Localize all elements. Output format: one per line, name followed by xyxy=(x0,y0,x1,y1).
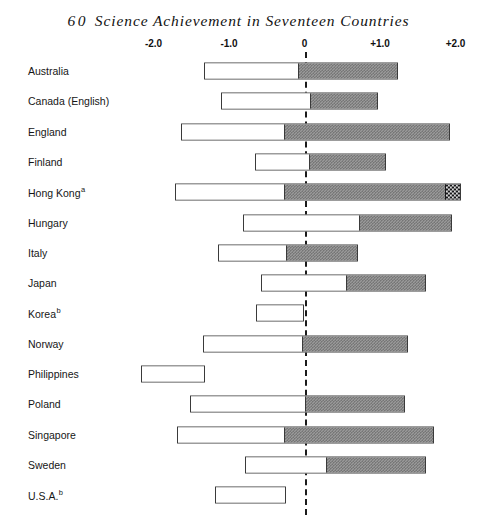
score-range-bar xyxy=(256,305,304,322)
bar-row: Norway xyxy=(0,329,477,359)
country-label: Japan xyxy=(28,277,57,289)
bar-segment-gray xyxy=(346,276,425,291)
bar-row: Poland xyxy=(0,389,477,419)
country-label: Italy xyxy=(28,247,47,259)
bar-segment-white xyxy=(262,276,346,291)
chart-title-text: Science Achievement in Seventeen Countri… xyxy=(95,12,410,29)
score-range-bar xyxy=(181,123,450,140)
score-range-bar xyxy=(218,244,358,261)
bar-row: Philippines xyxy=(0,359,477,389)
bar-row: U.S.A.b xyxy=(0,480,477,510)
country-label: Australia xyxy=(28,65,69,77)
bar-segment-white xyxy=(142,367,203,382)
chart-title-number: 60 xyxy=(68,12,88,29)
footnote-marker: b xyxy=(59,488,63,497)
footnote-marker: b xyxy=(57,307,61,316)
bar-segment-white xyxy=(222,94,310,109)
country-label: Sweden xyxy=(28,459,66,471)
country-label: Hong Konga xyxy=(28,185,85,199)
country-label: Philippines xyxy=(28,368,79,380)
bar-row: Koreab xyxy=(0,298,477,328)
score-range-bar xyxy=(177,426,434,443)
x-axis-tick-labels: -2.0-1.00+1.0+2.0 xyxy=(0,38,477,52)
bar-segment-gray xyxy=(284,185,445,200)
bar-segment-gray xyxy=(302,336,407,351)
bar-row: Italy xyxy=(0,238,477,268)
x-tick-label: +1.0 xyxy=(370,38,390,49)
score-range-bar xyxy=(243,214,451,231)
score-range-bar xyxy=(255,153,386,170)
bar-segment-white xyxy=(246,457,326,472)
country-label: England xyxy=(28,126,67,138)
country-label: Hungary xyxy=(28,217,68,229)
bar-segment-white xyxy=(205,64,298,79)
bar-segment-white xyxy=(244,215,358,230)
bar-row: England xyxy=(0,117,477,147)
score-range-bar xyxy=(141,366,204,383)
bar-segment-gray xyxy=(326,457,425,472)
score-range-bar xyxy=(204,63,398,80)
score-range-bar xyxy=(190,396,405,413)
bar-segment-gray xyxy=(305,397,404,412)
score-range-bar xyxy=(245,456,426,473)
bar-segment-black xyxy=(445,185,460,200)
x-tick-label: +2.0 xyxy=(446,38,466,49)
bar-segment-gray xyxy=(310,94,377,109)
bar-segment-gray xyxy=(286,245,357,260)
country-label: Finland xyxy=(28,156,62,168)
bar-segment-gray xyxy=(298,64,397,79)
score-range-bar xyxy=(261,275,426,292)
footnote-marker: a xyxy=(81,185,85,194)
x-tick-label: -2.0 xyxy=(145,38,162,49)
bar-row: Japan xyxy=(0,268,477,298)
bar-segment-gray xyxy=(284,124,450,139)
bar-row: Canada (English) xyxy=(0,86,477,116)
score-range-bar xyxy=(203,335,408,352)
science-achievement-chart: 60Science Achievement in Seventeen Count… xyxy=(0,0,477,527)
country-label: U.S.A.b xyxy=(28,488,63,502)
bar-segment-white xyxy=(257,306,303,321)
x-tick-label: -1.0 xyxy=(220,38,237,49)
bar-segment-white xyxy=(182,124,283,139)
bar-segment-gray xyxy=(359,215,451,230)
score-range-bar xyxy=(175,184,461,201)
score-range-bar xyxy=(215,487,286,504)
bar-row: Singapore xyxy=(0,420,477,450)
bar-row: Hungary xyxy=(0,208,477,238)
bar-row: Sweden xyxy=(0,450,477,480)
bar-segment-white xyxy=(204,336,303,351)
bar-segment-white xyxy=(256,154,309,169)
x-tick-label: 0 xyxy=(302,38,308,49)
chart-title: 60Science Achievement in Seventeen Count… xyxy=(0,12,477,30)
bar-segment-white xyxy=(178,427,284,442)
bar-segment-white xyxy=(191,397,305,412)
country-label: Singapore xyxy=(28,429,76,441)
bar-segment-white xyxy=(219,245,286,260)
bar-segment-gray xyxy=(284,427,434,442)
bar-row: Finland xyxy=(0,147,477,177)
country-label: Canada (English) xyxy=(28,95,109,107)
country-label: Poland xyxy=(28,398,61,410)
bar-row: Hong Konga xyxy=(0,177,477,207)
bar-segment-white xyxy=(176,185,284,200)
bar-segment-gray xyxy=(309,154,385,169)
country-label: Norway xyxy=(28,338,64,350)
bar-row: Australia xyxy=(0,56,477,86)
score-range-bar xyxy=(221,93,378,110)
country-label: Koreab xyxy=(28,307,61,321)
bar-segment-white xyxy=(216,488,285,503)
